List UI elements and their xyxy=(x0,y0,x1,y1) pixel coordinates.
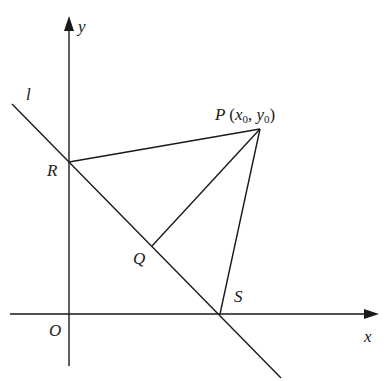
point-Q-label: Q xyxy=(133,250,145,267)
point-P-x: x xyxy=(235,105,243,124)
x-axis-arrow-icon xyxy=(364,309,379,319)
point-R-label: R xyxy=(47,162,57,179)
x-axis-label: x xyxy=(364,328,372,345)
point-P-name: P xyxy=(215,105,225,124)
point-P-close-paren: ) xyxy=(270,105,276,124)
segment-PQ xyxy=(152,129,260,246)
line-l-label: l xyxy=(26,86,31,103)
point-P-y: y xyxy=(257,105,265,124)
point-P-label: P (x0, y0) xyxy=(215,106,275,125)
point-S-label: S xyxy=(234,288,243,305)
origin-label: O xyxy=(49,322,61,339)
y-axis-arrow-icon xyxy=(64,16,74,31)
point-P-sep: , xyxy=(248,105,252,124)
diagram-canvas: y x O l R Q S P (x0, y0) xyxy=(0,0,386,381)
y-axis-label: y xyxy=(78,18,86,35)
segment-PR xyxy=(69,129,260,162)
